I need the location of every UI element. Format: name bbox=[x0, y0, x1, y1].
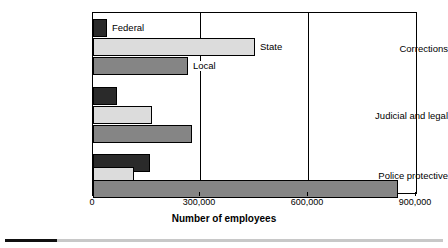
xtick-0 bbox=[92, 192, 93, 196]
bar-corrections-local bbox=[93, 57, 188, 75]
xtick-label-900000: 900,000 bbox=[385, 197, 445, 208]
bar-judicial-state bbox=[93, 106, 152, 124]
bar-judicial-local bbox=[93, 125, 192, 143]
xtick-label-0: 0 bbox=[72, 197, 112, 208]
series-label-local: Local bbox=[192, 61, 217, 71]
plot-area: Federal State Local bbox=[92, 12, 417, 194]
xtick-600000 bbox=[307, 192, 308, 196]
footer-rule bbox=[5, 239, 443, 242]
category-label-police: Police protective bbox=[362, 170, 448, 181]
bar-corrections-federal bbox=[93, 19, 107, 37]
x-axis-title: Number of employees bbox=[0, 213, 448, 224]
gridline-600000 bbox=[308, 13, 309, 193]
xtick-900000 bbox=[415, 192, 416, 196]
bar-police-local bbox=[93, 180, 398, 198]
xtick-label-600000: 600,000 bbox=[277, 197, 337, 208]
xtick-300000 bbox=[199, 192, 200, 196]
xtick-label-300000: 300,000 bbox=[169, 197, 229, 208]
bar-chart-figure: Federal State Local Corrections Judicial… bbox=[0, 0, 448, 248]
bar-corrections-state bbox=[93, 38, 255, 56]
category-label-judicial: Judicial and legal bbox=[362, 110, 448, 121]
bar-judicial-federal bbox=[93, 87, 117, 105]
series-label-federal: Federal bbox=[111, 23, 145, 33]
series-label-state: State bbox=[259, 42, 283, 52]
category-label-corrections: Corrections bbox=[362, 43, 448, 54]
footer-rule-accent bbox=[5, 239, 57, 242]
